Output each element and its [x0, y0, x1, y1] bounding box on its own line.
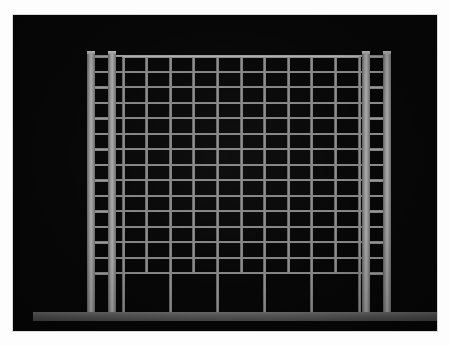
floor-beam-link [116, 117, 123, 119]
coupling-beam [370, 164, 383, 167]
photo-panel [13, 15, 437, 331]
coupling-beam [95, 226, 108, 229]
wall-pier-cap [87, 51, 95, 54]
coupling-beam [95, 257, 108, 260]
screenshot-root [0, 0, 449, 346]
floor-beam [122, 117, 361, 119]
floor-beam [122, 102, 361, 104]
floor-beam-link [359, 86, 362, 88]
floor-beam-link [359, 195, 362, 197]
floor-beam-link [116, 257, 123, 259]
floor-beam-link [359, 117, 362, 119]
coupling-beam [370, 133, 383, 136]
wall-pier-cap [362, 51, 370, 54]
floor-beam-link [116, 164, 123, 166]
floor-beam-link [116, 210, 123, 212]
coupling-beam [370, 86, 383, 89]
roof-beam [122, 55, 361, 58]
coupling-beam [370, 210, 383, 213]
coupling-beam [370, 55, 383, 58]
floor-beam-link [359, 226, 362, 228]
wall-pier [108, 52, 116, 312]
floor-beam [122, 148, 361, 150]
floor-beam [122, 179, 361, 181]
roof-beam-link [116, 55, 123, 57]
coupling-beam [95, 133, 108, 136]
floor-beam [122, 71, 361, 73]
coupling-beam [95, 117, 108, 120]
floor-beam-link [116, 86, 123, 88]
coupling-beam [95, 86, 108, 89]
floor-beam-link [359, 102, 362, 104]
coupling-beam [95, 241, 108, 244]
coupling-beam [95, 195, 108, 198]
floor-beam-link [359, 148, 362, 150]
floor-beam-link [359, 71, 362, 73]
coupling-beam [95, 148, 108, 151]
floor-beam-link [359, 179, 362, 181]
coupling-beam [370, 102, 383, 105]
floor-beam-link [116, 241, 123, 243]
wall-pier [87, 52, 95, 312]
foundation-grade-beam [33, 312, 437, 321]
coupling-beam [95, 210, 108, 213]
floor-beam-link [359, 133, 362, 135]
floor-beam [122, 133, 361, 135]
floor-beam-link [116, 226, 123, 228]
coupling-beam [95, 102, 108, 105]
wall-pier-cap [108, 51, 116, 54]
floor-beam-link [116, 133, 123, 135]
floor-beam [122, 226, 361, 228]
floor-beam [122, 241, 361, 243]
floor-beam-link [116, 102, 123, 104]
coupling-beam [370, 71, 383, 74]
floor-beam [122, 164, 361, 166]
floor-beam [122, 210, 361, 212]
floor-beam-link [359, 210, 362, 212]
coupling-beam [95, 272, 108, 275]
floor-beam-link [359, 241, 362, 243]
coupling-beam [370, 148, 383, 151]
coupling-beam [370, 272, 383, 275]
coupling-beam [95, 179, 108, 182]
coupling-beam [370, 226, 383, 229]
coupling-beam [95, 55, 108, 58]
floor-beam-link [116, 179, 123, 181]
wall-pier-cap [383, 51, 391, 54]
wall-pier [383, 52, 391, 312]
floor-beam-link [359, 272, 362, 274]
coupling-beam [370, 257, 383, 260]
structure-elevation [13, 15, 437, 331]
coupling-beam [370, 195, 383, 198]
roof-beam-link [359, 55, 362, 57]
coupling-beam [95, 164, 108, 167]
wall-pier [362, 52, 370, 312]
floor-beam [122, 86, 361, 88]
floor-beam-link [116, 148, 123, 150]
coupling-beam [370, 241, 383, 244]
floor-beam-link [116, 71, 123, 73]
floor-beam-link [359, 164, 362, 166]
coupling-beam [370, 117, 383, 120]
coupling-beam [95, 71, 108, 74]
floor-beam [122, 272, 361, 274]
floor-beam-link [359, 257, 362, 259]
floor-beam [122, 257, 361, 259]
coupling-beam [370, 179, 383, 182]
floor-beam [122, 195, 361, 197]
floor-beam-link [116, 272, 123, 274]
floor-beam-link [116, 195, 123, 197]
